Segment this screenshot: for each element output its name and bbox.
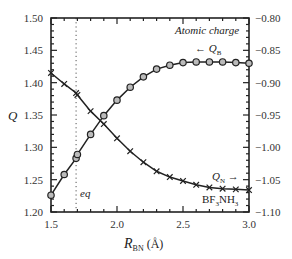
y-left-tick-label: 1.40: [24, 77, 44, 89]
cross-marker: [114, 135, 120, 141]
circle-marker: [101, 112, 107, 118]
eq-label: eq: [80, 187, 91, 199]
x-tick-label: 3.0: [242, 218, 256, 230]
y-right-tick-label: −0.90: [255, 77, 281, 89]
y-left-tick-labels: 1.201.251.301.351.401.451.50: [24, 12, 44, 218]
x-axis-title: RBN (Å): [123, 236, 163, 253]
cross-marker: [101, 121, 107, 127]
circle-marker: [153, 66, 159, 72]
y-right-tick-label: −1.05: [255, 174, 281, 186]
qn-series-label: QN →: [212, 170, 239, 185]
cross-marker: [88, 108, 94, 114]
atomic-charge-chart: 1.52.02.53.0 1.201.251.301.351.401.451.5…: [0, 0, 292, 259]
y-left-tick-label: 1.30: [24, 141, 44, 153]
circle-marker: [48, 192, 54, 198]
circle-marker: [140, 74, 146, 80]
x-tick-label: 2.5: [176, 218, 190, 230]
y-right-tick-label: −0.95: [255, 109, 281, 121]
x-tick-label: 1.5: [44, 218, 58, 230]
chart-title: Atomic charge: [174, 24, 239, 36]
circle-marker: [206, 59, 212, 65]
cross-marker: [141, 159, 147, 165]
series-q-n: [48, 70, 252, 193]
circle-marker: [219, 59, 225, 65]
cross-marker: [75, 92, 81, 98]
x-tick-labels: 1.52.02.53.0: [44, 218, 256, 230]
circle-marker: [180, 59, 186, 65]
circle-marker: [193, 59, 199, 65]
x-tick-label: 2.0: [110, 218, 124, 230]
circle-marker: [114, 97, 120, 103]
circle-marker: [87, 131, 93, 137]
y-right-tick-label: −0.85: [255, 44, 281, 56]
circle-marker: [74, 151, 80, 157]
cross-marker: [154, 168, 160, 174]
y-left-tick-label: 1.20: [24, 206, 44, 218]
cross-marker: [127, 148, 133, 154]
molecule-label: BF3NH3: [202, 193, 239, 208]
y-axis-title: Q: [8, 108, 18, 123]
y-left-tick-label: 1.35: [24, 109, 44, 121]
circle-marker: [61, 171, 67, 177]
circle-marker: [246, 60, 252, 66]
y-right-tick-label: −1.00: [255, 141, 281, 153]
circle-marker: [233, 59, 239, 65]
y-left-tick-label: 1.25: [24, 174, 44, 186]
circle-marker: [167, 62, 173, 68]
y-right-tick-label: −0.80: [255, 12, 281, 24]
circle-marker: [127, 84, 133, 90]
cross-marker: [61, 81, 67, 87]
y-left-tick-label: 1.45: [24, 44, 44, 56]
y-right-tick-label: −1.10: [255, 206, 281, 218]
y-right-tick-labels: −1.10−1.05−1.00−0.95−0.90−0.85−0.80: [255, 12, 281, 218]
qb-series-label: ← QB: [195, 42, 222, 57]
y-left-tick-label: 1.50: [24, 12, 44, 24]
